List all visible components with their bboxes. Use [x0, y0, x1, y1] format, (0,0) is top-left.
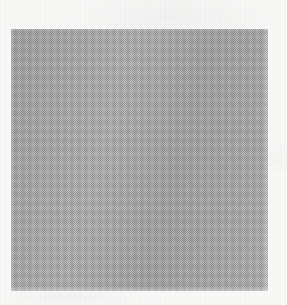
scan-banding-texture	[11, 29, 268, 291]
gray-image-plate	[11, 29, 268, 291]
scanned-page	[0, 0, 287, 305]
plate-edge-halo	[11, 29, 268, 291]
halftone-dither-texture	[11, 29, 268, 291]
